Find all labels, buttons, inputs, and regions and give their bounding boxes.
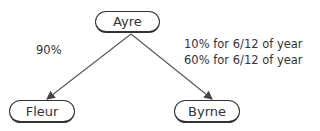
node-ayre: Ayre	[95, 11, 160, 33]
edge-label-byrne-line1: 10% for 6/12 of year	[184, 36, 303, 52]
node-ayre-label: Ayre	[113, 14, 142, 29]
edge-label-byrne-line2: 60% for 6/12 of year	[184, 52, 303, 68]
node-byrne: Byrne	[174, 100, 240, 123]
node-fleur-label: Fleur	[26, 104, 59, 119]
node-byrne-label: Byrne	[188, 104, 226, 119]
edge-label-fleur: 90%	[36, 42, 62, 58]
node-fleur: Fleur	[9, 100, 75, 123]
